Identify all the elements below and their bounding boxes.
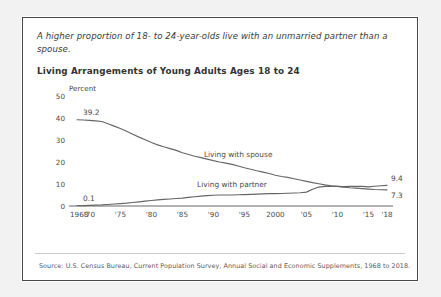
spouse-end-value: 7.3 <box>391 191 403 200</box>
y-tick-label: 40 <box>56 114 66 123</box>
x-tick-labels: 1968'70'75'80'85'90'952000'05'10'15'18 <box>70 210 393 219</box>
series-label: Living with partner <box>197 180 268 189</box>
partner-end-value: 9.4 <box>391 174 403 183</box>
x-tick-label: '10 <box>332 210 344 219</box>
x-tick-label: '70 <box>84 210 96 219</box>
data-series-group <box>77 120 387 206</box>
partner-start-value: 0.1 <box>83 194 95 203</box>
source-note: Source: U.S. Census Bureau, Current Popu… <box>39 262 410 270</box>
chart-plot-area: Percent 01020304050 1968'70'75'80'85'90'… <box>35 82 407 232</box>
x-tick-label: '85 <box>177 210 188 219</box>
x-tick-label: '90 <box>208 210 220 219</box>
x-tick-label: '18 <box>381 210 393 219</box>
y-tick-label: 30 <box>56 136 66 145</box>
y-tick-label: 20 <box>56 158 66 167</box>
y-tick-labels: 01020304050 <box>56 92 66 211</box>
chart-card-content: A higher proportion of 18- to 24-year-ol… <box>23 18 417 280</box>
source-divider <box>35 253 405 254</box>
chart-title: Living Arrangements of Young Adults Ages… <box>37 66 405 76</box>
series-label: Living with spouse <box>204 150 273 159</box>
x-tick-label: 2000 <box>266 210 285 219</box>
page-background: A higher proportion of 18- to 24-year-ol… <box>0 0 441 297</box>
x-tick-label: '80 <box>146 210 158 219</box>
y-tick-label: 0 <box>60 202 65 211</box>
y-tick-label: 10 <box>56 180 66 189</box>
spouse-start-value: 39.2 <box>83 108 99 117</box>
y-axis-unit-label: Percent <box>69 84 96 93</box>
x-tick-label: '05 <box>301 210 312 219</box>
series-inline-labels: Living with spouseLiving with partner <box>197 150 273 189</box>
x-tick-label: '75 <box>115 210 126 219</box>
y-tick-label: 50 <box>56 92 66 101</box>
x-tick-label: '95 <box>239 210 250 219</box>
y-axis-group: Percent 01020304050 <box>56 84 96 211</box>
chart-subtitle: A higher proportion of 18- to 24-year-ol… <box>37 30 405 55</box>
line-chart: Percent 01020304050 1968'70'75'80'85'90'… <box>35 82 407 232</box>
x-axis-group: 1968'70'75'80'85'90'952000'05'10'15'18 <box>69 206 393 219</box>
chart-card: A higher proportion of 18- to 24-year-ol… <box>22 17 418 281</box>
x-tick-label: '15 <box>363 210 374 219</box>
